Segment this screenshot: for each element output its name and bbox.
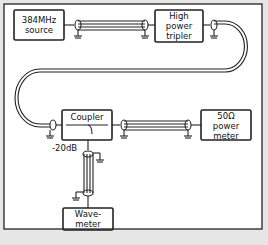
powermeter-label: 50Ω power meter [201,111,251,141]
wavemeter-label: Wave- meter [63,209,113,229]
tripler-label: High power tripler [155,11,203,41]
source-label: 384MHz source [14,15,64,35]
coupling-annotation: -20dB [52,143,82,153]
coupler-label: Coupler [62,112,112,122]
